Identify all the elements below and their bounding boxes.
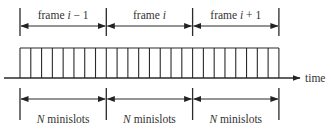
frame-label-offset: − 1 [71, 9, 89, 21]
minislot-count-text: minislots [44, 113, 90, 125]
minislot-count-label: N minislots [36, 113, 90, 125]
frame-label: frame i [133, 9, 166, 21]
frame-timeline-diagram: frame i − 1frame iframe i + 1 time N min… [0, 0, 332, 136]
frame-label-word: frame [133, 9, 163, 21]
minislot-count-label: N minislots [122, 113, 176, 125]
frame-label: frame i + 1 [210, 9, 261, 21]
frame-label-word: frame [210, 9, 240, 21]
minislot-count-text: minislots [217, 113, 263, 125]
minislot-count-text: minislots [131, 113, 177, 125]
minislot-grid [20, 48, 279, 78]
time-axis-label: time [305, 72, 325, 84]
frame-label-word: frame [38, 9, 68, 21]
frame-label-index: i [163, 9, 166, 21]
frame-label: frame i − 1 [38, 9, 89, 21]
minislot-labels-group: N minislotsN minislotsN minislots [20, 88, 279, 125]
frame-labels-group: frame i − 1frame iframe i + 1 [20, 8, 279, 36]
frame-label-offset: + 1 [243, 9, 261, 21]
minislot-count-label: N minislots [208, 113, 262, 125]
